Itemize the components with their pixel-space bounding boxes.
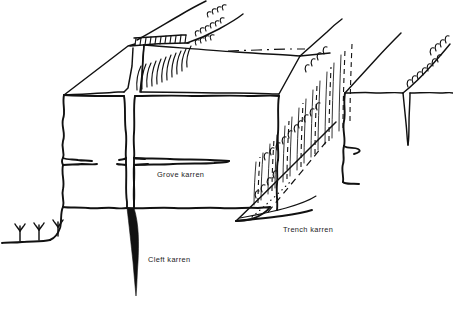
label-cleft-karren: Cleft karren [148,255,190,264]
karren-diagram-figure: Grove karren Trench karren Cleft karren [0,0,453,309]
label-grove-karren: Grove karren [157,170,204,179]
label-trench-karren: Trench karren [283,225,333,234]
karren-line-drawing: Grove karren Trench karren Cleft karren [0,0,453,309]
figure-background [0,0,453,309]
